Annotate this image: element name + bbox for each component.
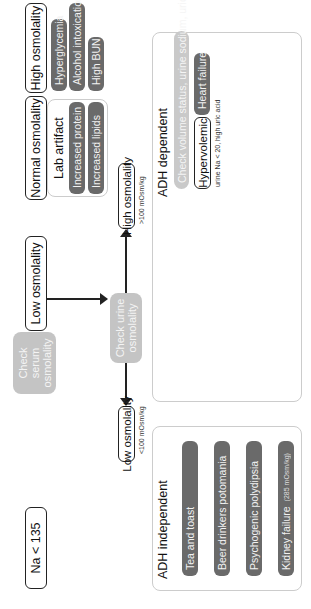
pill-psychogenic-polydipsia: Psychogenic polydipsia — [246, 441, 262, 576]
hyponatremia-flowchart: Na < 135 Check serum osmolality Low osmo… — [0, 0, 311, 609]
pill-hyperglycemia: Hyperglycemia — [51, 19, 67, 91]
adh-dependent-title: ADH dependent — [156, 108, 170, 197]
pill-increased-protein: Increased protein — [69, 102, 85, 194]
urine-high-osmolality: High osmolality — [118, 163, 135, 229]
start-node-na-135: Na < 135 — [25, 507, 47, 589]
serum-normal-osmolality: Normal osmolality — [25, 96, 47, 200]
urine-low-label: Low osmolality — [121, 396, 133, 471]
check-urine-label: Check urine osmolality — [114, 293, 138, 363]
check-serum-label: Check serum osmolality — [17, 332, 53, 394]
hypervolemic-box: Hypervolemic — [194, 117, 211, 189]
kidney-failure-label: Kidney failure — [280, 506, 292, 570]
kidney-failure-note: (285 mOsm/kg) — [283, 453, 290, 501]
lab-artifact-title: Lab artifact — [52, 117, 66, 179]
pill-increased-lipids: Increased lipids — [88, 102, 104, 194]
pill-high-bun: High BUN — [88, 37, 104, 91]
pill-tea-and-toast: Tea and toast — [182, 441, 198, 576]
urine-low-threshold: <100 mOsm/kg — [138, 406, 145, 454]
pill-kidney-failure: Kidney failure(285 mOsm/kg) — [278, 441, 294, 576]
start-label: Na < 135 — [29, 522, 43, 573]
urine-high-label: High osmolality — [121, 157, 133, 235]
serum-low-label: Low osmolality — [29, 243, 43, 325]
pill-beer-potomania: Beer drinkers potomania — [214, 441, 230, 576]
check-serum-osmolality: Check serum osmolality — [13, 332, 56, 394]
pill-heart-failure: Heart failure — [194, 53, 210, 115]
urine-high-threshold: >100 mOsm/kg — [138, 176, 145, 224]
serum-low-osmolality: Low osmolality — [25, 236, 47, 331]
check-volume-status: Check volume status, urine sodium, uric … — [174, 31, 189, 189]
pill-alcohol-intoxication: Alcohol intoxication — [69, 3, 85, 91]
serum-high-osmolality: High osmolality — [25, 3, 47, 93]
urine-low-osmolality: Low osmolality — [118, 406, 135, 462]
serum-high-label: High osmolality — [29, 6, 43, 91]
hypervolemic-label: Hypervolemic — [197, 118, 209, 188]
serum-normal-label: Normal osmolality — [29, 98, 43, 197]
connector-line-right — [125, 235, 127, 293]
connector-line-left — [125, 363, 127, 400]
adh-independent-title: ADH independent — [156, 480, 170, 579]
hypervolemic-note: urine Na < 20, high uric acid — [214, 100, 221, 187]
connector-line — [47, 299, 103, 301]
arrow-down-icon — [100, 293, 108, 305]
check-urine-osmolality: Check urine osmolality — [110, 293, 142, 363]
